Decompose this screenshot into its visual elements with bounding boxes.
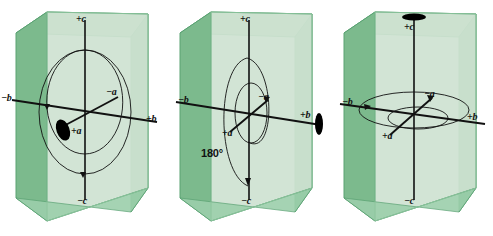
label-rotation-angle: 180° — [201, 148, 223, 159]
panel-180-degree-rotation-about-b: +c −c −b +b +a −a 180° — [164, 0, 329, 236]
label-minus-b: −b — [342, 97, 353, 107]
label-plus-a: +a — [71, 126, 81, 136]
label-plus-b: +b — [300, 110, 310, 120]
label-minus-b: −b — [1, 93, 12, 103]
label-minus-c: −c — [404, 196, 414, 206]
label-plus-c: +c — [76, 14, 86, 24]
label-minus-a: −a — [258, 92, 269, 102]
label-plus-b: +b — [467, 112, 477, 122]
label-minus-b: −b — [178, 95, 189, 105]
label-plus-c: +c — [404, 22, 414, 32]
panel-rotation-about-c: +c −c −b +b +a −a — [328, 0, 493, 236]
label-plus-b: +b — [146, 114, 156, 124]
label-minus-c: −c — [241, 196, 251, 206]
label-minus-a: −a — [424, 89, 435, 99]
label-plus-a: +a — [222, 128, 232, 138]
box-prism — [180, 12, 312, 221]
two-fold-axis-symbol — [402, 13, 426, 20]
label-minus-c: −c — [77, 196, 87, 206]
label-plus-a: +a — [382, 131, 392, 141]
label-plus-c: +c — [240, 14, 250, 24]
panel-two-fold-axis-along-a: +c −c −b +b +a −a — [0, 0, 165, 236]
label-minus-a: −a — [106, 87, 117, 97]
diagram-canvas: +c −c −b +b +a −a — [0, 0, 493, 236]
two-fold-axis-symbol — [315, 113, 323, 135]
